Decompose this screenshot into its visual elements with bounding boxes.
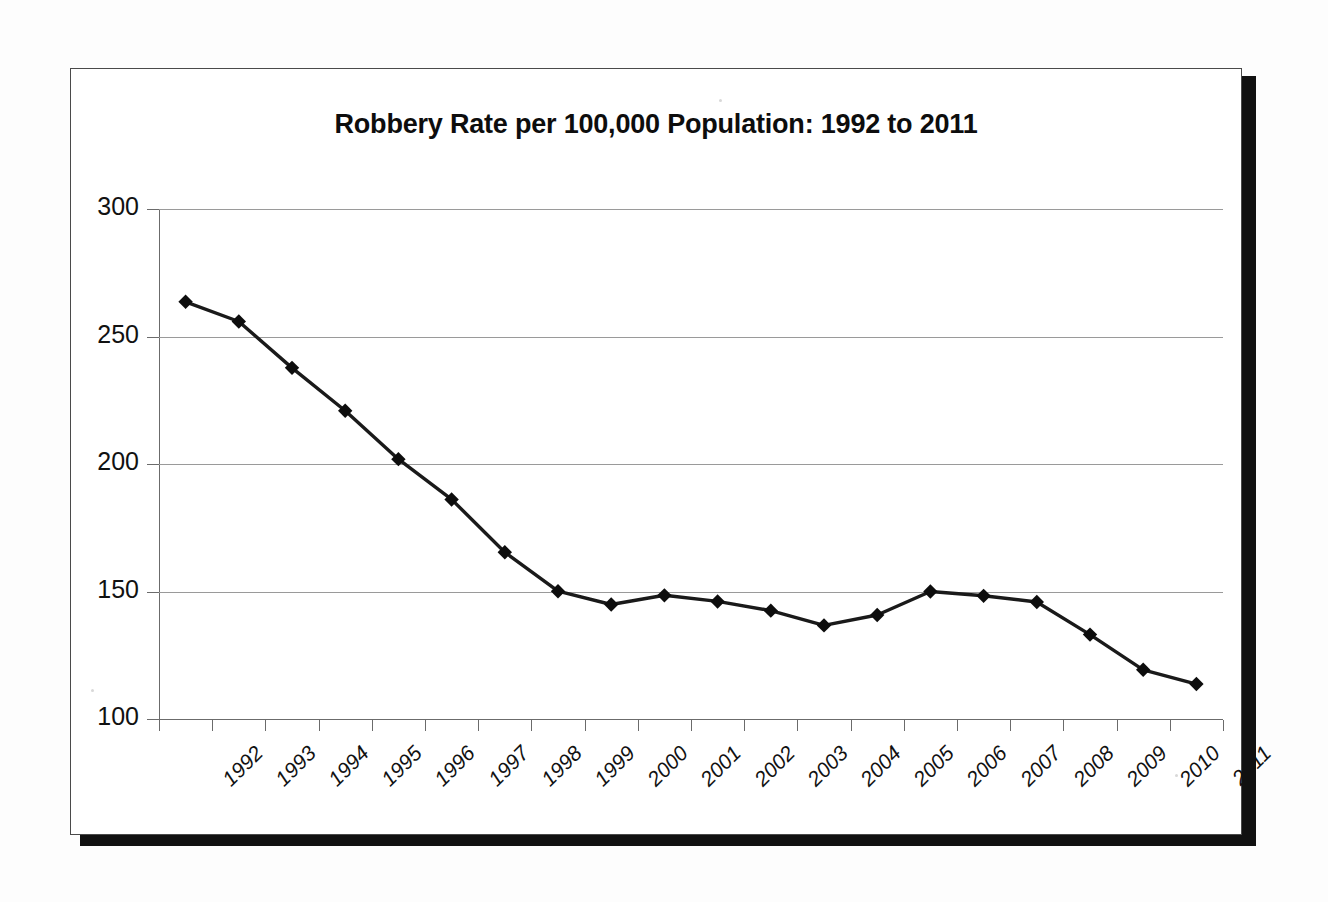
y-tick-200	[147, 464, 159, 465]
x-axis-label-2005: 2005	[909, 741, 959, 791]
data-point-2003	[764, 603, 778, 617]
x-tick-20	[1223, 720, 1224, 731]
x-tick-17	[1063, 720, 1064, 731]
x-axis-label-1996: 1996	[430, 741, 480, 791]
y-tick-150	[147, 592, 159, 593]
data-point-2011	[1189, 677, 1203, 691]
data-point-1998	[498, 545, 512, 559]
x-axis-label-2007: 2007	[1015, 741, 1065, 791]
y-tick-300	[147, 209, 159, 210]
data-point-2005	[870, 608, 884, 622]
x-tick-4	[372, 720, 373, 731]
x-axis-label-2008: 2008	[1068, 741, 1118, 791]
scan-speck	[719, 99, 722, 102]
data-point-2008	[1030, 595, 1044, 609]
x-tick-8	[585, 720, 586, 731]
x-axis-label-1993: 1993	[270, 741, 320, 791]
x-axis-label-1995: 1995	[377, 741, 427, 791]
y-tick-250	[147, 337, 159, 338]
x-axis-label-1998: 1998	[536, 741, 586, 791]
y-tick-100	[147, 719, 159, 720]
x-axis-label-1994: 1994	[324, 741, 374, 791]
data-point-2002	[710, 594, 724, 608]
gridline-300	[159, 209, 1223, 210]
data-point-1995	[338, 404, 352, 418]
gridline-150	[159, 592, 1223, 593]
x-axis-label-1999: 1999	[590, 741, 640, 791]
y-axis-label-200: 200	[71, 447, 139, 476]
x-tick-16	[1010, 720, 1011, 731]
series-line	[186, 302, 1197, 684]
data-point-1997	[444, 492, 458, 506]
chart-frame: Robbery Rate per 100,000 Population: 199…	[70, 68, 1242, 835]
x-axis-label-2006: 2006	[962, 741, 1012, 791]
x-tick-9	[638, 720, 639, 731]
data-point-2010	[1136, 663, 1150, 677]
scan-speck	[91, 689, 94, 692]
x-axis-label-1997: 1997	[483, 741, 533, 791]
data-point-2000	[604, 597, 618, 611]
x-tick-18	[1117, 720, 1118, 731]
gridline-200	[159, 464, 1223, 465]
chart-title: Robbery Rate per 100,000 Population: 199…	[71, 109, 1241, 140]
x-tick-6	[478, 720, 479, 731]
x-axis-label-2002: 2002	[749, 741, 799, 791]
x-tick-12	[797, 720, 798, 731]
x-tick-2	[265, 720, 266, 731]
x-tick-13	[851, 720, 852, 731]
x-tick-1	[212, 720, 213, 731]
x-axis-label-2001: 2001	[696, 741, 746, 791]
x-tick-15	[957, 720, 958, 731]
gridline-250	[159, 337, 1223, 338]
data-point-1994	[285, 361, 299, 375]
x-tick-10	[691, 720, 692, 731]
data-point-2009	[1083, 627, 1097, 641]
x-axis-label-1992: 1992	[217, 741, 267, 791]
x-axis-label-2003: 2003	[802, 741, 852, 791]
series-line-chart	[71, 69, 1243, 836]
x-tick-14	[904, 720, 905, 731]
data-point-1992	[178, 295, 192, 309]
x-tick-3	[319, 720, 320, 731]
x-axis-label-2009: 2009	[1122, 741, 1172, 791]
y-axis-label-150: 150	[71, 575, 139, 604]
y-axis-label-100: 100	[71, 702, 139, 731]
x-tick-7	[531, 720, 532, 731]
x-axis-label-2010: 2010	[1175, 741, 1225, 791]
data-point-1993	[232, 314, 246, 328]
x-tick-11	[744, 720, 745, 731]
x-tick-5	[425, 720, 426, 731]
data-point-2004	[817, 618, 831, 632]
y-axis-label-250: 250	[71, 320, 139, 349]
scanned-page-background: Robbery Rate per 100,000 Population: 199…	[0, 0, 1328, 902]
page-shadow-right	[1242, 76, 1256, 846]
y-axis-label-300: 300	[71, 192, 139, 221]
x-tick-19	[1170, 720, 1171, 731]
x-axis-label-2004: 2004	[856, 741, 906, 791]
data-point-2001	[657, 588, 671, 602]
x-tick-0	[159, 720, 160, 731]
scan-speck	[1175, 774, 1178, 777]
x-axis-label-2000: 2000	[643, 741, 693, 791]
